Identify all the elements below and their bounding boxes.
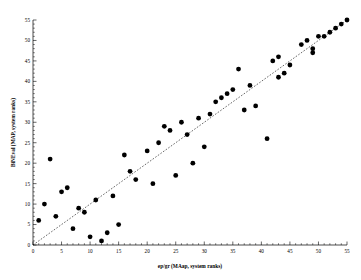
x-axis-title: ep/gr (MAap, system ranks) — [158, 263, 222, 270]
data-point — [168, 128, 173, 133]
data-point — [345, 18, 350, 23]
data-point — [59, 189, 64, 194]
data-point — [88, 234, 93, 239]
data-point — [133, 177, 138, 182]
data-point — [248, 83, 253, 88]
x-tick-label: 5 — [60, 248, 63, 254]
axis-labels-group: 0510152025303540455055051015202530354045… — [10, 17, 350, 270]
x-tick-label: 55 — [344, 248, 350, 254]
data-point — [122, 153, 127, 158]
y-tick-label: 35 — [25, 99, 31, 105]
data-point — [53, 214, 58, 219]
data-point — [111, 194, 116, 199]
data-point — [236, 67, 241, 72]
y-tick-label: 30 — [25, 119, 31, 125]
data-point — [156, 140, 161, 145]
y-tick-label: 10 — [25, 201, 31, 207]
data-point — [333, 26, 338, 31]
data-point — [322, 34, 327, 39]
y-tick-label: 40 — [25, 78, 31, 84]
x-tick-label: 40 — [259, 248, 265, 254]
data-point — [265, 136, 270, 141]
x-tick-label: 25 — [173, 248, 179, 254]
chart-canvas: 0510152025303540455055051015202530354045… — [0, 0, 361, 280]
data-point — [185, 132, 190, 137]
data-point — [82, 210, 87, 215]
data-point — [219, 95, 224, 100]
x-tick-label: 15 — [116, 248, 122, 254]
data-point — [202, 144, 207, 149]
data-point — [145, 149, 150, 154]
data-point — [42, 202, 47, 207]
y-axis-title: BiNEval (MAP, system ranks) — [10, 98, 17, 167]
data-point — [36, 218, 41, 223]
x-tick-label: 10 — [87, 248, 93, 254]
data-point — [208, 112, 213, 117]
data-point — [282, 71, 287, 76]
data-point — [230, 87, 235, 92]
data-point — [310, 50, 315, 55]
data-point — [48, 157, 53, 162]
y-tick-label: 5 — [27, 221, 30, 227]
data-point — [288, 63, 293, 68]
data-point — [196, 116, 201, 121]
x-tick-label: 30 — [202, 248, 208, 254]
data-point — [270, 59, 275, 64]
data-point — [225, 91, 230, 96]
data-point — [65, 185, 70, 190]
data-point — [99, 239, 104, 244]
data-point — [327, 30, 332, 35]
data-point — [310, 46, 315, 51]
data-point — [162, 124, 167, 129]
y-tick-label: 45 — [25, 58, 31, 64]
y-tick-label: 15 — [25, 181, 31, 187]
data-point — [116, 222, 121, 227]
x-tick-label: 45 — [287, 248, 293, 254]
data-point — [128, 169, 133, 174]
data-point — [71, 226, 76, 231]
data-point — [76, 206, 81, 211]
data-point — [299, 42, 304, 47]
data-point — [179, 120, 184, 125]
x-tick-label: 0 — [32, 248, 35, 254]
diagonal-reference-line — [33, 20, 347, 245]
data-point — [93, 198, 98, 203]
y-tick-label: 20 — [25, 160, 31, 166]
data-point — [276, 75, 281, 80]
data-point — [173, 173, 178, 178]
data-point — [150, 181, 155, 186]
data-point — [316, 34, 321, 39]
scatter-plot-figure: 0510152025303540455055051015202530354045… — [0, 0, 361, 280]
data-point — [339, 22, 344, 27]
data-point — [242, 108, 247, 113]
y-tick-label: 55 — [25, 17, 31, 23]
reference-line-group — [33, 20, 347, 245]
y-tick-label: 25 — [25, 140, 31, 146]
x-tick-label: 35 — [230, 248, 236, 254]
data-point — [305, 38, 310, 43]
y-tick-label: 50 — [25, 37, 31, 43]
y-tick-label: 0 — [27, 242, 30, 248]
x-tick-label: 50 — [316, 248, 322, 254]
data-point — [190, 161, 195, 166]
x-tick-label: 20 — [145, 248, 151, 254]
data-point — [276, 54, 281, 59]
data-point — [213, 99, 218, 104]
data-point — [105, 230, 110, 235]
data-point — [253, 104, 258, 109]
